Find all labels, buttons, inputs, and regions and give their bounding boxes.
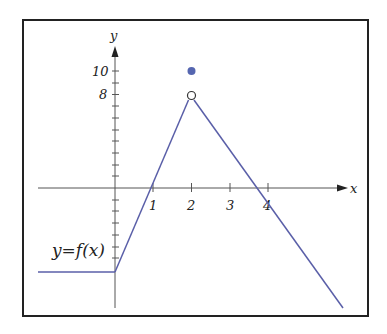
function-graph: x y 10 8 1 2 3 4 <box>0 0 387 334</box>
y-axis-arrow-icon <box>112 46 119 57</box>
segment-rising <box>115 100 189 272</box>
segment-falling <box>194 100 343 308</box>
y-tick-label-10: 10 <box>92 64 109 79</box>
y-axis-label: y <box>109 28 118 43</box>
x-tick-label-2: 2 <box>186 198 195 213</box>
filled-dot-point <box>188 67 196 75</box>
function-label: y=f(x) <box>51 240 105 260</box>
x-axis-label: x <box>350 181 358 196</box>
y-tick-label-8: 8 <box>99 87 107 102</box>
x-axis-arrow-icon <box>337 185 348 192</box>
open-circle-point <box>188 92 196 100</box>
x-tick-label-1: 1 <box>149 198 157 213</box>
x-axis: x <box>38 181 358 196</box>
x-tick-label-3: 3 <box>226 198 234 213</box>
